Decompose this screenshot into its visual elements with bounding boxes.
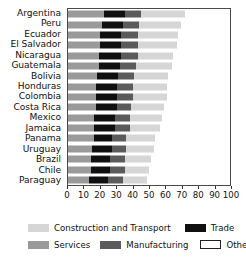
x-tick-mark — [165, 186, 166, 189]
bar-segment-services — [68, 125, 94, 132]
legend-label-manufacturing: Manufacturing — [126, 240, 188, 250]
bar-segment-services — [68, 176, 89, 183]
stacked-bar-chart: ArgentinaPeruEcuadorEl SalvadorNicaragua… — [0, 0, 246, 258]
category-label: Jamaica — [0, 123, 64, 133]
bar-segment-others — [154, 145, 230, 152]
bar-track — [68, 11, 230, 18]
bar-segment-trade — [89, 176, 108, 183]
bar-segment-manufacturing — [120, 62, 136, 69]
category-label: Peru — [0, 18, 64, 28]
bar-segment-trade — [102, 21, 123, 28]
bar-row — [68, 154, 230, 164]
legend-item-construction-and-transport: Construction and Transport — [28, 223, 171, 233]
x-tick-mark — [67, 186, 68, 189]
bar-segment-construction-and-transport — [134, 73, 168, 80]
bar-track — [68, 156, 230, 163]
bar-segment-others — [160, 125, 230, 132]
bar-segment-services — [68, 145, 92, 152]
bar-segment-construction-and-transport — [133, 83, 167, 90]
bar-segment-services — [68, 21, 102, 28]
bar-segment-services — [68, 73, 97, 80]
x-tick-mark — [133, 186, 134, 189]
x-tick-label: 50 — [144, 190, 155, 200]
bar-segment-manufacturing — [121, 42, 137, 49]
bar-row — [68, 144, 230, 154]
legend-swatch-manufacturing-icon — [100, 241, 121, 249]
category-label: Colombia — [0, 92, 64, 102]
bar-segment-services — [68, 62, 99, 69]
bar-segment-others — [155, 135, 230, 142]
bar-segment-others — [149, 166, 230, 173]
bar-track — [68, 176, 230, 183]
bar-row — [68, 9, 230, 19]
bar-segment-trade — [96, 94, 117, 101]
bar-segment-construction-and-transport — [125, 166, 149, 173]
bar-segment-construction-and-transport — [130, 114, 162, 121]
category-label: Costa Rica — [0, 102, 64, 112]
bar-segment-manufacturing — [112, 145, 127, 152]
x-tick-mark — [116, 186, 117, 189]
x-tick-mark — [83, 186, 84, 189]
bar-segment-trade — [100, 31, 121, 38]
bar-segment-trade — [104, 11, 125, 18]
bar-track — [68, 166, 230, 173]
chart-legend: Construction and Transport Trade Service… — [28, 219, 236, 253]
bar-track — [68, 73, 230, 80]
bar-track — [68, 104, 230, 111]
bar-segment-manufacturing — [115, 114, 130, 121]
bar-segment-others — [164, 104, 230, 111]
bar-row — [68, 71, 230, 81]
bar-row — [68, 164, 230, 174]
bar-track — [68, 135, 230, 142]
x-tick-mark — [149, 186, 150, 189]
x-tick-mark — [182, 186, 183, 189]
bar-segment-trade — [99, 52, 122, 59]
legend-row-1: Construction and Transport Trade — [28, 219, 236, 236]
bar-segment-trade — [97, 73, 118, 80]
bar-row — [68, 30, 230, 40]
bar-segment-services — [68, 104, 96, 111]
legend-label-services: Services — [54, 240, 90, 250]
bar-track — [68, 83, 230, 90]
bar-segment-manufacturing — [115, 125, 130, 132]
bar-track — [68, 42, 230, 49]
bar-segment-construction-and-transport — [126, 145, 154, 152]
bar-segment-trade — [92, 145, 111, 152]
bars-container — [68, 9, 230, 185]
x-tick-label: 20 — [94, 190, 105, 200]
bar-segment-manufacturing — [108, 176, 123, 183]
bar-row — [68, 50, 230, 60]
x-tick-mark — [100, 186, 101, 189]
legend-label-construction-and-transport: Construction and Transport — [54, 223, 171, 233]
legend-swatch-others-icon — [200, 240, 221, 249]
bar-segment-manufacturing — [117, 104, 132, 111]
category-label: Mexico — [0, 113, 64, 123]
bar-segment-others — [147, 176, 230, 183]
x-tick-label: 30 — [111, 190, 122, 200]
bar-segment-construction-and-transport — [139, 21, 181, 28]
plot-area — [67, 8, 231, 186]
bar-segment-construction-and-transport — [130, 125, 161, 132]
bar-segment-construction-and-transport — [138, 42, 177, 49]
bar-segment-services — [68, 135, 94, 142]
bar-segment-manufacturing — [121, 52, 137, 59]
bar-segment-manufacturing — [110, 166, 125, 173]
bar-row — [68, 92, 230, 102]
legend-swatch-construction-icon — [28, 224, 49, 232]
bar-segment-others — [173, 52, 230, 59]
bar-segment-services — [68, 166, 91, 173]
category-label: Nicaragua — [0, 50, 64, 60]
bar-segment-services — [68, 42, 100, 49]
bar-segment-trade — [96, 83, 117, 90]
bar-row — [68, 82, 230, 92]
bar-segment-construction-and-transport — [141, 11, 185, 18]
bar-segment-trade — [99, 62, 120, 69]
legend-swatch-services-icon — [28, 241, 49, 249]
bar-segment-others — [185, 11, 230, 18]
legend-item-others: Others — [200, 240, 246, 250]
bar-segment-construction-and-transport — [136, 62, 172, 69]
legend-item-services: Services — [28, 240, 90, 250]
x-axis: 0102030405060708090100 — [67, 186, 231, 206]
bar-segment-construction-and-transport — [138, 52, 174, 59]
bar-segment-manufacturing — [125, 11, 141, 18]
